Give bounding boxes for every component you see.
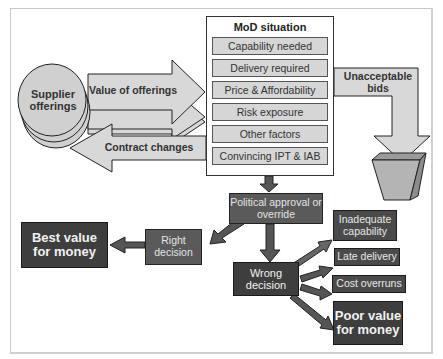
mod-situation-title: MoD situation xyxy=(207,21,333,33)
outcome-late-delivery: Late delivery xyxy=(334,248,400,266)
bin-icon xyxy=(372,153,426,200)
mod-item-risk: Risk exposure xyxy=(212,103,328,121)
unacceptable-bids-label: Unacceptable bids xyxy=(340,70,416,96)
political-approval-box: Political approval or override xyxy=(229,193,323,224)
political-to-wrong-arrow xyxy=(260,224,280,262)
mod-item-convincing: Convincing IPT & IAB xyxy=(212,147,328,165)
wrong-to-cost-arrow xyxy=(300,284,332,300)
poor-value-box: Poor value for money xyxy=(333,301,403,345)
wrong-decision-box: Wrong decision xyxy=(233,262,299,296)
supplier-offerings-label: Supplier offerings xyxy=(20,80,86,120)
right-decision-box: Right decision xyxy=(145,229,202,265)
mod-to-political-arrow xyxy=(260,176,278,192)
mod-item-capability: Capability needed xyxy=(212,37,328,55)
value-of-offerings-label: Value of offerings xyxy=(90,82,176,100)
wrong-to-poor-arrow xyxy=(290,294,334,330)
best-value-box: Best value for money xyxy=(21,222,108,268)
right-to-best-arrow xyxy=(110,237,145,253)
outcome-inadequate-capability: Inadequate capability xyxy=(333,210,397,241)
contract-changes-label: Contract changes xyxy=(94,140,204,156)
mod-situation-panel: MoD situation Capability needed Delivery… xyxy=(206,16,334,176)
outcome-cost-overruns: Cost overruns xyxy=(332,275,406,293)
mod-item-delivery: Delivery required xyxy=(212,59,328,77)
wrong-to-late-arrow xyxy=(300,266,333,282)
mod-item-other: Other factors xyxy=(212,125,328,143)
mod-item-price: Price & Affordability xyxy=(212,81,328,99)
